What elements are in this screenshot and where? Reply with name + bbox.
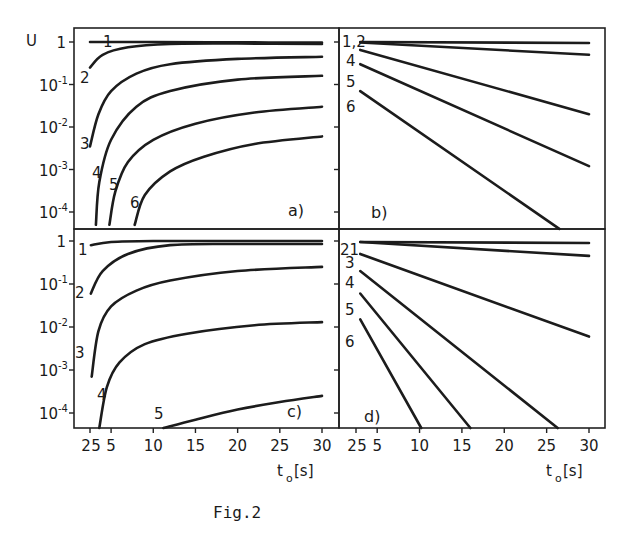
curve-b-4: [360, 50, 589, 114]
series-label: 4: [345, 274, 355, 292]
x-tick-label: 2: [81, 437, 91, 455]
curve-a-2: [90, 44, 322, 68]
y-tick-exponent: -4: [58, 202, 68, 213]
series-label: 3: [345, 254, 355, 272]
series-label: 6: [346, 98, 356, 116]
x-tick-label: 30: [579, 437, 598, 455]
x-axis-title-c: t o [s]: [277, 462, 314, 485]
panel-frames: [74, 28, 605, 428]
x-tick-label: 5: [372, 437, 382, 455]
panel-d-tag: d): [364, 407, 380, 426]
series-label: 2: [80, 69, 90, 87]
y-tick-exponent: -3: [58, 160, 68, 171]
figure-caption: Fig.2: [213, 503, 261, 522]
y-axis-top: 110-110-210-310-4: [39, 34, 74, 222]
y-tick-exponent: -3: [58, 360, 68, 371]
y-tick-exponent: -4: [58, 403, 68, 414]
series-label: 1: [78, 241, 88, 259]
x-axis-title-c-subscript: o: [286, 472, 293, 485]
x-tick-label: 20: [228, 437, 247, 455]
x-axis-d: 2551015202530: [347, 428, 598, 455]
y-tick-exponent: -2: [58, 317, 68, 328]
x-tick-label: 5: [357, 437, 367, 455]
panel-c-tag: c): [287, 402, 302, 421]
x-tick-label: 20: [495, 437, 514, 455]
series-label: 4: [346, 52, 356, 70]
curve-c-3: [92, 267, 322, 377]
x-axis-title-d-symbol: t: [546, 462, 552, 480]
series-label: 1,2: [342, 33, 366, 51]
x-tick-label: 10: [144, 437, 163, 455]
curve-d-4: [360, 271, 557, 428]
series-label: 2: [75, 284, 85, 302]
series-label: 5: [346, 73, 356, 91]
x-axis-title-d: t o [s]: [546, 462, 583, 485]
series-label: 5: [109, 176, 119, 194]
y-tick-label: 10: [39, 119, 58, 137]
x-tick-label: 25: [537, 437, 556, 455]
x-tick-label: 5: [106, 437, 116, 455]
series-label: 4: [92, 164, 102, 182]
x-tick-label: 15: [452, 437, 471, 455]
x-tick-label: 5: [91, 437, 101, 455]
y-tick-label: 10: [39, 204, 58, 222]
x-tick-label: 25: [270, 437, 289, 455]
y-tick-label: 10: [39, 77, 58, 95]
x-tick-label: 10: [410, 437, 429, 455]
panel-b-tag: b): [371, 203, 387, 222]
y-tick-exponent: -1: [58, 75, 68, 86]
y-tick-label: 1: [56, 34, 66, 52]
x-axis-title-d-subscript: o: [555, 472, 562, 485]
series-label: 3: [75, 344, 85, 362]
curve-b-2: [360, 43, 589, 55]
panel-b-frame: [339, 28, 605, 229]
x-tick-label: 15: [186, 437, 205, 455]
y-tick-exponent: -2: [58, 117, 68, 128]
curve-a-3: [90, 57, 322, 147]
y-tick-label: 10: [39, 162, 58, 180]
series-label: 6: [130, 194, 140, 212]
series-label: 5: [345, 301, 355, 319]
y-axis-bottom: 110-110-210-310-4: [39, 233, 74, 423]
series-label: 3: [80, 135, 90, 153]
panel-a-tag: a): [288, 201, 304, 220]
series-label: 5: [154, 405, 164, 423]
x-axis-title-c-symbol: t: [277, 462, 283, 480]
x-axis-title-d-unit: [s]: [563, 462, 583, 480]
y-tick-label: 1: [56, 233, 66, 251]
series-label: 4: [97, 386, 107, 404]
series-label: 1: [103, 33, 113, 51]
y-tick-label: 10: [39, 276, 58, 294]
y-tick-label: 10: [39, 319, 58, 337]
x-tick-label: 2: [347, 437, 357, 455]
y-tick-label: 10: [39, 362, 58, 380]
figure-2: U 110-110-210-310-4 110-110-210-310-4 25…: [0, 0, 628, 533]
curve-d-3: [360, 254, 589, 337]
x-axis-title-c-unit: [s]: [294, 462, 314, 480]
y-axis-symbol: U: [26, 32, 37, 50]
x-tick-label: 30: [312, 437, 331, 455]
y-tick-label: 10: [39, 405, 58, 423]
y-tick-exponent: -1: [58, 274, 68, 285]
curve-b-6: [360, 91, 559, 229]
x-axis-c: 2551015202530: [81, 428, 331, 455]
series-label: 6: [345, 333, 355, 351]
curve-b-1: [360, 42, 589, 43]
